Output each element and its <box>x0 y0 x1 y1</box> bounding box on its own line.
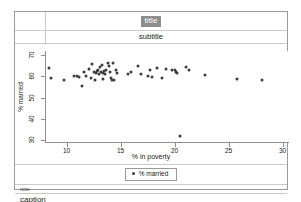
x-axis-band: 1015202530 % in poverty <box>15 143 287 164</box>
graph-title[interactable]: title <box>141 16 162 27</box>
scatter-point[interactable] <box>63 78 66 81</box>
scatter-point[interactable] <box>146 74 149 77</box>
legend-band[interactable]: % married <box>15 164 287 184</box>
graph-frame: title subtitle % married 3040506070 1015… <box>14 11 288 190</box>
title-band[interactable]: title <box>15 12 287 30</box>
scatter-point[interactable] <box>175 72 178 75</box>
scatter-point[interactable] <box>130 70 133 73</box>
scatter-point[interactable] <box>104 72 107 75</box>
plot-area[interactable] <box>45 51 289 143</box>
scatter-point[interactable] <box>50 77 53 80</box>
legend-marker-icon <box>132 172 135 175</box>
y-tick-label: 60 <box>28 73 35 80</box>
scatter-point[interactable] <box>113 78 116 81</box>
scatter-point[interactable] <box>84 74 87 77</box>
graph-preview: title subtitle % married 3040506070 1015… <box>0 0 301 202</box>
scatter-point[interactable] <box>203 73 206 76</box>
y-tick-label: 40 <box>28 115 35 122</box>
scatter-point[interactable] <box>150 75 153 78</box>
y-tick-label: 70 <box>28 52 35 59</box>
graph-subtitle[interactable]: subtitle <box>139 32 163 41</box>
scatter-point[interactable] <box>148 69 151 72</box>
scatter-point[interactable] <box>102 78 105 81</box>
scatter-point[interactable] <box>187 68 190 71</box>
scatter-point[interactable] <box>78 76 81 79</box>
scatter-point[interactable] <box>107 65 110 68</box>
scatter-point[interactable] <box>160 77 163 80</box>
scatter-point[interactable] <box>101 63 104 66</box>
scatter-point[interactable] <box>261 78 264 81</box>
scatter-point[interactable] <box>236 78 239 81</box>
y-axis-label: % married <box>17 82 24 112</box>
x-axis-label: % in poverty <box>15 153 287 160</box>
scatter-point[interactable] <box>111 61 114 64</box>
scatter-point[interactable] <box>156 67 159 70</box>
scatter-point[interactable] <box>140 72 143 75</box>
plot-band: % married 3040506070 <box>15 43 287 143</box>
scatter-point[interactable] <box>80 84 83 87</box>
scatter-point[interactable] <box>108 70 111 73</box>
y-tick-label: 50 <box>28 94 35 101</box>
legend-label: % married <box>139 170 169 178</box>
scatter-point[interactable] <box>48 67 51 70</box>
subtitle-band[interactable]: subtitle <box>15 30 287 43</box>
scatter-point[interactable] <box>88 68 91 71</box>
scatter-point[interactable] <box>136 64 139 67</box>
legend-box[interactable]: % married <box>125 168 178 181</box>
caption-band[interactable]: caption <box>15 193 287 202</box>
note-band[interactable]: note <box>15 184 287 193</box>
scatter-point[interactable] <box>116 71 119 74</box>
scatter-point[interactable] <box>91 63 94 66</box>
graph-note[interactable]: note <box>15 186 30 192</box>
graph-caption[interactable]: caption <box>15 195 46 202</box>
scatter-point[interactable] <box>164 67 167 70</box>
scatter-point[interactable] <box>93 79 96 82</box>
scatter-point[interactable] <box>178 134 181 137</box>
